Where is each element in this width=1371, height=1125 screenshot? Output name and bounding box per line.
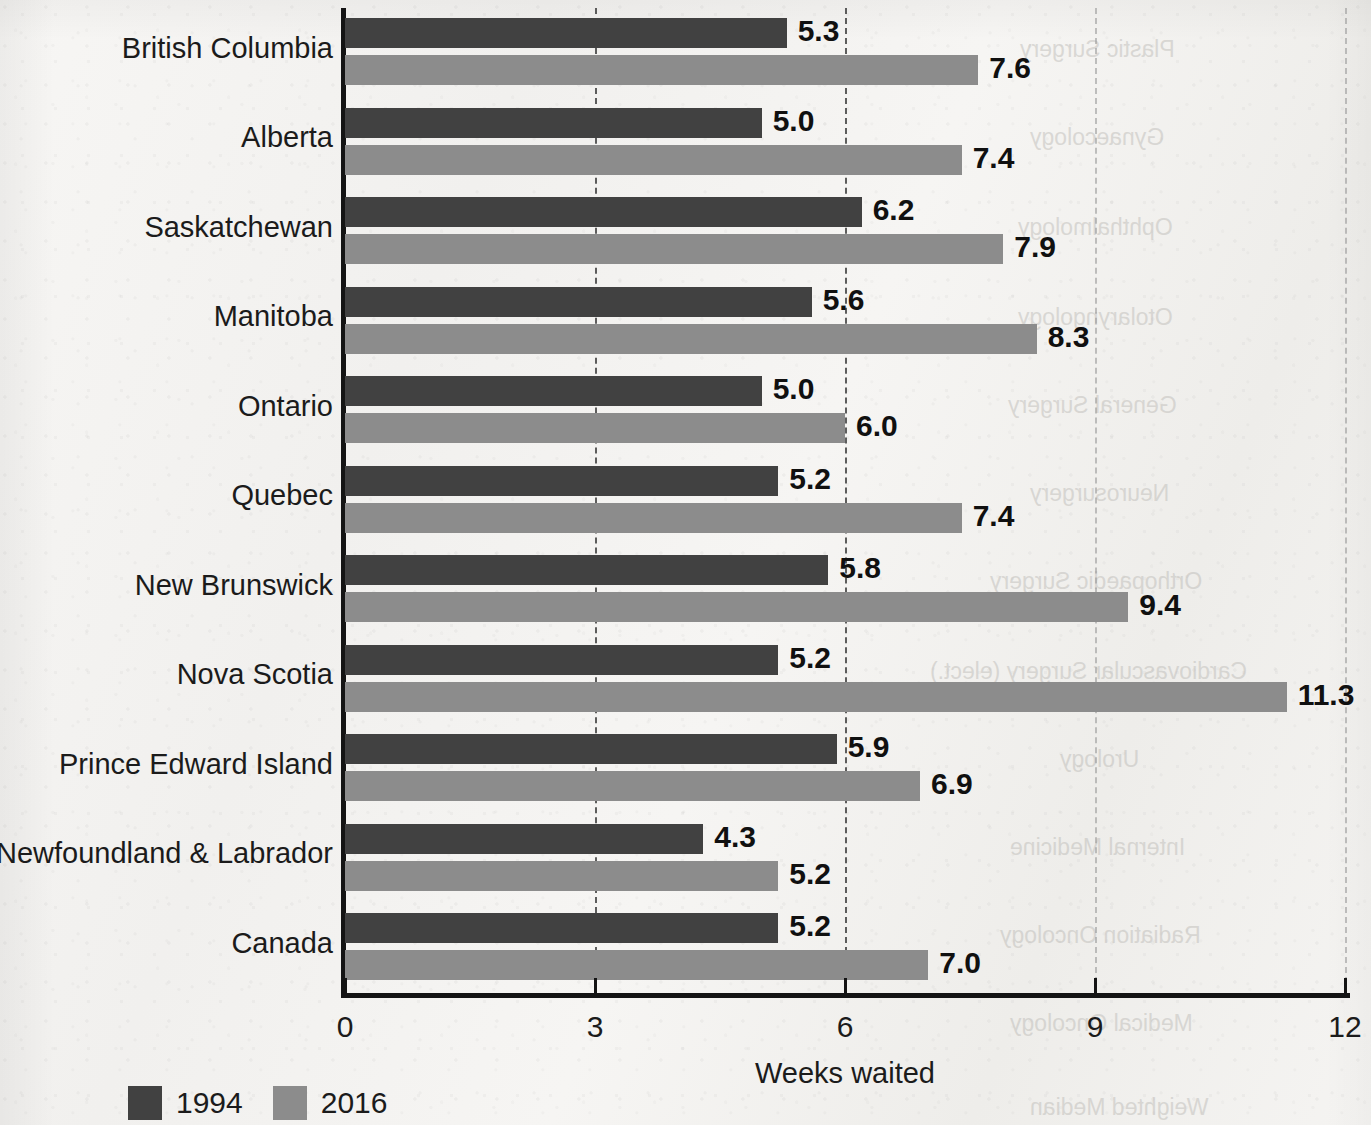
bar-value-label: 6.2 [873,193,915,227]
bar-1994 [345,18,787,48]
tick-mark-3 [594,978,597,998]
bar-1994 [345,824,703,854]
ghost-text-item: Weighted Median [1030,1094,1209,1121]
tick-label-9: 9 [1087,1010,1104,1044]
tick-label-6: 6 [837,1010,854,1044]
bar-value-label: 7.6 [989,51,1031,85]
bar-value-label: 6.9 [931,767,973,801]
bar-1994 [345,734,837,764]
bar-value-label: 5.6 [823,283,865,317]
bar-value-label: 5.9 [848,730,890,764]
bar-1994 [345,913,778,943]
bar-2016 [345,592,1128,622]
bar-1994 [345,287,812,317]
bar-value-label: 5.2 [789,857,831,891]
category-label: Manitoba [214,300,333,333]
category-label: New Brunswick [135,569,333,602]
bar-value-label: 5.8 [839,551,881,585]
bar-value-label: 5.3 [798,14,840,48]
bar-2016 [345,950,928,980]
bar-2016 [345,771,920,801]
bar-value-label: 6.0 [856,409,898,443]
bar-2016 [345,861,778,891]
legend-item-1994: 1994 [128,1086,243,1120]
gridline-9 [1095,8,1097,993]
chart-legend: 19942016 [128,1086,388,1120]
bar-value-label: 5.0 [773,104,815,138]
bar-value-label: 7.0 [939,946,981,980]
bar-value-label: 5.2 [789,462,831,496]
legend-label: 1994 [176,1086,243,1120]
bar-1994 [345,108,762,138]
bar-value-label: 4.3 [714,820,756,854]
bar-value-label: 7.9 [1014,230,1056,264]
tick-label-12: 12 [1328,1010,1361,1044]
tick-mark-12 [1344,978,1347,998]
category-label: Ontario [238,390,333,423]
category-label: Canada [231,927,333,960]
bar-value-label: 11.3 [1298,678,1355,712]
gridline-12 [1345,8,1347,993]
category-label: Prince Edward Island [59,748,333,781]
bar-2016 [345,324,1037,354]
bar-2016 [345,234,1003,264]
category-label: Quebec [231,479,333,512]
chart-page: Plastic Surgery Gynaecology Ophthalmolog… [0,0,1371,1125]
category-label: Saskatchewan [144,211,333,244]
tick-label-3: 3 [587,1010,604,1044]
bar-value-label: 7.4 [973,141,1015,175]
bar-1994 [345,645,778,675]
bar-value-label: 7.4 [973,499,1015,533]
category-label: Newfoundland & Labrador [0,837,333,870]
category-label: Nova Scotia [177,658,333,691]
bar-2016 [345,145,962,175]
bar-1994 [345,466,778,496]
legend-swatch [273,1086,307,1120]
bar-value-label: 8.3 [1048,320,1090,354]
category-label: Alberta [241,121,333,154]
tick-mark-6 [844,978,847,998]
bar-value-label: 5.0 [773,372,815,406]
category-label: British Columbia [122,32,333,65]
bar-2016 [345,55,978,85]
bar-2016 [345,413,845,443]
plot-area: 5.37.65.07.46.27.95.68.35.06.05.27.45.89… [345,0,1345,998]
tick-mark-9 [1094,978,1097,998]
bar-1994 [345,376,762,406]
bar-1994 [345,555,828,585]
bar-1994 [345,197,862,227]
bar-value-label: 9.4 [1139,588,1181,622]
legend-swatch [128,1086,162,1120]
tick-mark-0 [344,978,347,998]
legend-label: 2016 [321,1086,388,1120]
bar-value-label: 5.2 [789,909,831,943]
bar-2016 [345,682,1287,712]
bar-value-label: 5.2 [789,641,831,675]
legend-item-2016: 2016 [273,1086,388,1120]
tick-label-0: 0 [337,1010,354,1044]
x-axis-title: Weeks waited [345,1057,1345,1090]
bar-2016 [345,503,962,533]
